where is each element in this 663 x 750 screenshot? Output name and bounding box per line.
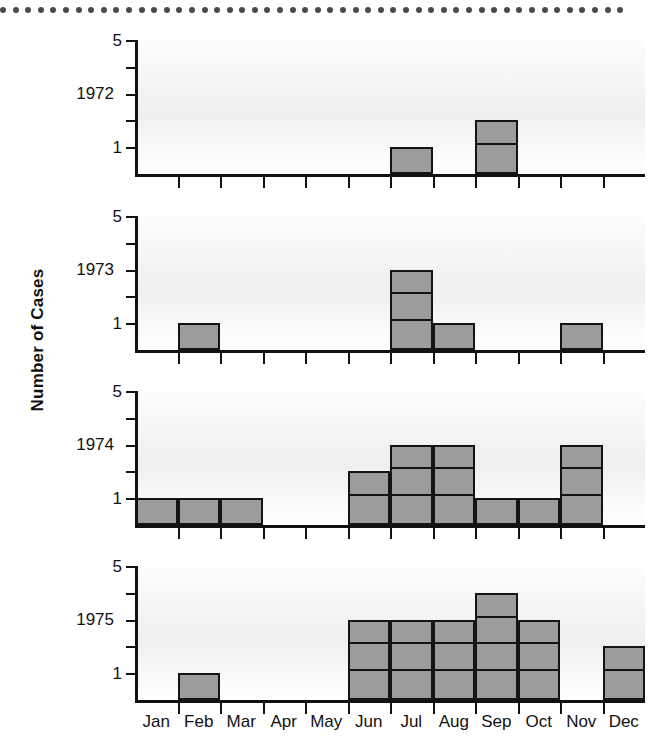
- x-axis-tick-Oct: [518, 528, 520, 539]
- bar-Sep-1972: [475, 120, 518, 174]
- plot-area: 15: [135, 212, 645, 354]
- bar-segment-divider: [348, 669, 391, 671]
- bar-Oct-1975: [518, 620, 561, 700]
- bar-Mar-1974: [220, 498, 263, 525]
- year-panel-1972: 197215: [0, 26, 663, 181]
- month-label-Jun: Jun: [348, 712, 391, 732]
- bar-Jul-1972: [390, 147, 433, 174]
- y-axis-tick-4: [126, 593, 135, 595]
- bar-segment-divider: [475, 143, 518, 145]
- border-dot: [101, 7, 107, 13]
- bar-Oct-1974: [518, 498, 561, 525]
- bar-segment-divider: [433, 467, 476, 469]
- bar-Jul-1973: [390, 270, 433, 350]
- x-axis-tick-Dec: [603, 353, 605, 364]
- border-dot: [151, 7, 157, 13]
- y-axis-tick-label-1: 1: [113, 139, 122, 156]
- border-dot: [353, 7, 359, 13]
- x-axis-tick-Jul: [390, 353, 392, 364]
- month-label-Sep: Sep: [475, 712, 518, 732]
- border-dot: [315, 7, 321, 13]
- x-axis-tick-Sep: [475, 353, 477, 364]
- border-dot: [554, 7, 560, 13]
- border-dot: [579, 7, 585, 13]
- y-axis-tick-3: [126, 445, 135, 447]
- month-label-Oct: Oct: [518, 712, 561, 732]
- y-axis-tick-2: [126, 471, 135, 473]
- year-panel-1974: 197415: [0, 377, 663, 532]
- bar-segment-divider: [433, 669, 476, 671]
- year-panel-1975: 197515: [0, 552, 663, 707]
- y-axis-tick-1: [126, 673, 135, 675]
- border-dot: [605, 7, 611, 13]
- bar-segment-divider: [433, 642, 476, 644]
- x-axis-tick-Oct: [518, 177, 520, 188]
- bar-segment-divider: [348, 642, 391, 644]
- y-axis-tick-5: [126, 391, 135, 393]
- border-dot: [113, 7, 119, 13]
- month-label-Apr: Apr: [263, 712, 306, 732]
- border-dot: [88, 7, 94, 13]
- month-label-Aug: Aug: [433, 712, 476, 732]
- border-dot: [327, 7, 333, 13]
- bar-Feb-1975: [178, 673, 221, 700]
- bar-Sep-1974: [475, 498, 518, 525]
- x-axis-tick-Feb: [178, 177, 180, 188]
- border-dot: [567, 7, 573, 13]
- border-dot: [428, 7, 434, 13]
- x-axis-tick-Feb: [178, 528, 180, 539]
- border-dot: [441, 7, 447, 13]
- y-axis-tick-1: [126, 498, 135, 500]
- border-dot: [252, 7, 258, 13]
- panel-year-label: 1975: [28, 610, 114, 630]
- y-axis-tick-4: [126, 243, 135, 245]
- y-axis-tick-3: [126, 620, 135, 622]
- x-axis-tick-Aug: [433, 528, 435, 539]
- border-dot: [13, 7, 19, 13]
- plot-area: 15: [135, 387, 645, 529]
- bar-segment-divider: [560, 467, 603, 469]
- y-axis-tick-label-5: 5: [113, 208, 122, 225]
- y-axis-tick-5: [126, 216, 135, 218]
- bar-Jul-1974: [390, 445, 433, 525]
- bar-Jun-1975: [348, 620, 391, 700]
- bar-Feb-1974: [178, 498, 221, 525]
- border-dot: [479, 7, 485, 13]
- y-axis-line: [135, 391, 138, 525]
- y-axis-tick-label-1: 1: [113, 490, 122, 507]
- y-axis-tick-label-5: 5: [113, 32, 122, 49]
- bar-segment-divider: [518, 642, 561, 644]
- bar-Feb-1973: [178, 323, 221, 350]
- border-dot: [504, 7, 510, 13]
- border-dot: [378, 7, 384, 13]
- border-dot: [466, 7, 472, 13]
- bar-segment-divider: [390, 669, 433, 671]
- x-axis-tick-Oct: [518, 353, 520, 364]
- year-panel-1973: 197315: [0, 202, 663, 357]
- x-axis-tick-Jun: [348, 353, 350, 364]
- border-dot: [617, 7, 623, 13]
- y-axis-line: [135, 216, 138, 350]
- border-dot: [340, 7, 346, 13]
- bar-Sep-1975: [475, 593, 518, 700]
- border-dot: [302, 7, 308, 13]
- border-dot: [264, 7, 270, 13]
- border-dot: [76, 7, 82, 13]
- border-dot: [227, 7, 233, 13]
- y-axis-tick-2: [126, 120, 135, 122]
- y-axis-tick-3: [126, 270, 135, 272]
- y-axis-tick-4: [126, 418, 135, 420]
- bar-Aug-1973: [433, 323, 476, 350]
- panel-year-label: 1973: [28, 260, 114, 280]
- border-dot: [202, 7, 208, 13]
- bar-segment-divider: [390, 467, 433, 469]
- x-axis-tick-Feb: [178, 353, 180, 364]
- border-dot: [453, 7, 459, 13]
- border-dot: [592, 7, 598, 13]
- border-dot: [38, 7, 44, 13]
- x-axis-month-labels: JanFebMarAprMayJunJulAugSepOctNovDec: [135, 712, 645, 740]
- x-axis-tick-Nov: [560, 528, 562, 539]
- border-dot: [542, 7, 548, 13]
- border-dot: [416, 7, 422, 13]
- bar-Aug-1975: [433, 620, 476, 700]
